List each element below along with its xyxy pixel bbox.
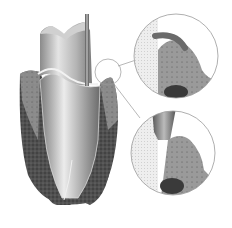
magnified-view-top	[130, 10, 225, 110]
periodontal-probe	[85, 14, 89, 86]
connector-line-top	[118, 60, 136, 66]
magnified-view-bottom	[128, 108, 223, 205]
bone-detail	[160, 178, 184, 194]
tooth-illustration	[0, 0, 232, 228]
